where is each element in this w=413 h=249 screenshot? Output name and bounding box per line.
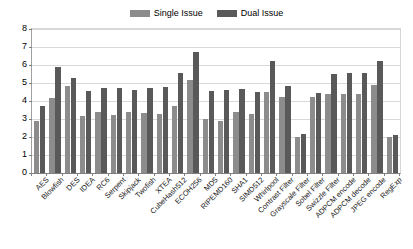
bar-dual-issue <box>331 74 336 173</box>
bar-single-issue <box>295 137 300 173</box>
bars-layer <box>32 29 400 173</box>
bar-single-issue <box>65 86 70 173</box>
bar-dual-issue <box>285 86 290 173</box>
legend-label-dual-issue: Dual Issue <box>241 9 284 18</box>
bar-group <box>187 29 198 173</box>
bar-single-issue <box>249 114 254 173</box>
bar-group <box>141 29 152 173</box>
bar-group <box>233 29 244 173</box>
bar-single-issue <box>111 115 116 174</box>
bar-single-issue <box>95 112 100 173</box>
legend-swatch-dual-issue <box>217 10 237 17</box>
legend-entry-dual-issue: Dual Issue <box>217 9 284 18</box>
bar-dual-issue <box>362 73 367 173</box>
y-tick-label: 3 <box>3 114 27 123</box>
bar-single-issue <box>126 112 131 173</box>
chart-legend: Single Issue Dual Issue <box>0 5 413 21</box>
y-tick-label: 8 <box>3 24 27 33</box>
plot-area <box>31 28 401 174</box>
bar-dual-issue <box>393 135 398 173</box>
bar-dual-issue <box>301 134 306 173</box>
bar-dual-issue <box>71 78 76 173</box>
y-tick-label: 1 <box>3 150 27 159</box>
bar-dual-issue <box>347 73 352 173</box>
bar-group <box>203 29 214 173</box>
bar-group <box>111 29 122 173</box>
bar-group <box>341 29 352 173</box>
bar-dual-issue <box>239 89 244 173</box>
bar-single-issue <box>264 92 269 173</box>
bar-group <box>356 29 367 173</box>
x-axis-labels: AESBlowfishDESIDEARC6SerpentSkipjackTwof… <box>0 176 413 249</box>
y-tick-label: 2 <box>3 132 27 141</box>
bar-group <box>295 29 306 173</box>
bar-group <box>371 29 382 173</box>
bar-single-issue <box>187 80 192 173</box>
bar-dual-issue <box>255 92 260 173</box>
bar-dual-issue <box>86 91 91 173</box>
bar-group <box>95 29 106 173</box>
bar-dual-issue <box>117 88 122 173</box>
bar-single-issue <box>80 116 85 173</box>
bar-dual-issue <box>224 90 229 173</box>
bar-dual-issue <box>193 52 198 173</box>
bar-single-issue <box>371 85 376 173</box>
bar-single-issue <box>325 94 330 173</box>
bar-dual-issue <box>270 61 275 173</box>
bar-group <box>172 29 183 173</box>
bar-group <box>218 29 229 173</box>
bar-single-issue <box>203 119 208 173</box>
bar-group <box>387 29 398 173</box>
bar-dual-issue <box>209 91 214 173</box>
bar-single-issue <box>310 97 315 174</box>
bar-dual-issue <box>101 88 106 174</box>
bar-single-issue <box>157 114 162 173</box>
bar-single-issue <box>141 113 146 173</box>
y-tick-label: 6 <box>3 60 27 69</box>
bar-dual-issue <box>147 88 152 174</box>
bar-single-issue <box>356 94 361 173</box>
bar-single-issue <box>218 121 223 173</box>
bar-single-issue <box>233 112 238 173</box>
bar-dual-issue <box>377 61 382 173</box>
bar-dual-issue <box>316 93 321 173</box>
bar-dual-issue <box>40 106 45 174</box>
bar-dual-issue <box>132 90 137 173</box>
y-tick-label: 7 <box>3 42 27 51</box>
bar-group <box>310 29 321 173</box>
bar-single-issue <box>279 97 284 174</box>
y-axis: 012345678 <box>0 28 27 173</box>
bar-group <box>65 29 76 173</box>
bar-single-issue <box>172 106 177 173</box>
legend-swatch-single-issue <box>130 10 150 17</box>
bar-group <box>49 29 60 173</box>
bar-dual-issue <box>163 87 168 173</box>
bar-dual-issue <box>178 73 183 173</box>
bar-single-issue <box>49 98 54 173</box>
legend-label-single-issue: Single Issue <box>154 9 203 18</box>
bar-group <box>34 29 45 173</box>
x-axis-label: DES <box>65 176 82 193</box>
y-tick-label: 5 <box>3 78 27 87</box>
legend-entry-single-issue: Single Issue <box>130 9 203 18</box>
bar-group <box>80 29 91 173</box>
bar-group <box>325 29 336 173</box>
bar-group <box>279 29 290 173</box>
bar-chart: Single Issue Dual Issue 012345678 AESBlo… <box>0 0 413 249</box>
y-tick-label: 4 <box>3 96 27 105</box>
bar-single-issue <box>34 121 39 173</box>
bar-single-issue <box>387 137 392 173</box>
bar-group <box>264 29 275 173</box>
bar-group <box>126 29 137 173</box>
bar-group <box>249 29 260 173</box>
bar-dual-issue <box>55 67 60 173</box>
bar-single-issue <box>341 94 346 173</box>
bar-group <box>157 29 168 173</box>
